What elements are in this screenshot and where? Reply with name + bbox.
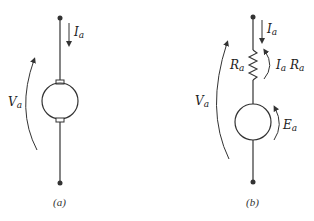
diagram-canvas: Ia Va (a) Ia Ra Ia Ra Ea Va (b)	[0, 0, 314, 221]
emf-arrow-b	[274, 108, 279, 140]
caption-b: (b)	[246, 197, 259, 208]
label-voltage-a: Va	[8, 96, 22, 110]
terminal-bottom-b	[251, 180, 256, 185]
armature-b	[235, 104, 271, 140]
voltage-arrow-a	[26, 60, 37, 150]
circuit-a	[26, 16, 78, 186]
voltage-arrow-b	[216, 43, 229, 159]
resistor-ra	[249, 50, 257, 80]
brush-bottom-a	[56, 118, 64, 122]
circuit-b	[216, 15, 279, 185]
terminal-bottom-a	[58, 181, 63, 186]
label-voltage-b: Va	[195, 95, 209, 109]
label-current-a: Ia	[74, 26, 84, 40]
label-current-b: Ia	[267, 23, 277, 37]
armature-a	[42, 83, 78, 119]
label-drop-b: Ia Ra	[276, 59, 304, 73]
label-resistor-b: Ra	[230, 59, 244, 73]
drop-arrow-b	[264, 51, 270, 79]
label-emf-b: Ea	[283, 119, 297, 133]
caption-a: (a)	[53, 197, 66, 208]
